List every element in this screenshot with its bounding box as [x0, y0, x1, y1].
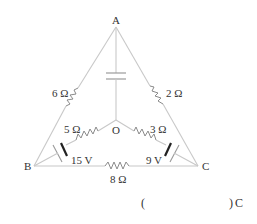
- node-label-o: O: [112, 125, 120, 136]
- label-9v: 9 V: [146, 155, 162, 166]
- wire-a-to-2ohm: [116, 27, 150, 86]
- answer-close-paren: ): [229, 197, 233, 209]
- label-3ohm: 3 Ω: [150, 124, 166, 135]
- node-label-b: B: [24, 161, 31, 172]
- node-label-a: A: [112, 15, 120, 26]
- answer-open-paren: (: [141, 197, 145, 209]
- resistor-2ohm: [150, 86, 163, 104]
- label-15v: 15 V: [71, 155, 93, 166]
- wire-3ohm-to-battery: [156, 140, 166, 145]
- answer-unit: C: [235, 197, 243, 209]
- node-label-c: C: [202, 161, 209, 172]
- label-8ohm: 8 Ω: [110, 174, 126, 185]
- label-6ohm: 6 Ω: [52, 88, 68, 99]
- circuit-diagram: [0, 0, 257, 224]
- wire-5ohm-to-battery: [66, 140, 76, 145]
- resistor-8ohm: [105, 162, 129, 169]
- label-5ohm: 5 Ω: [64, 124, 80, 135]
- label-2ohm: 2 Ω: [166, 88, 182, 99]
